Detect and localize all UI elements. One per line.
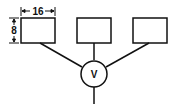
box-1 <box>21 18 55 43</box>
connector-box-3 <box>106 43 149 67</box>
box-2 <box>77 18 111 43</box>
diagram-canvas: 16 8 V <box>0 0 176 109</box>
diagram-svg: 16 8 V <box>0 0 176 109</box>
width-dimension-label: 16 <box>32 6 44 17</box>
height-dimension-label: 8 <box>11 25 17 36</box>
connector-box-1 <box>40 43 82 67</box>
box-3 <box>133 18 167 43</box>
valve-label: V <box>91 69 98 80</box>
